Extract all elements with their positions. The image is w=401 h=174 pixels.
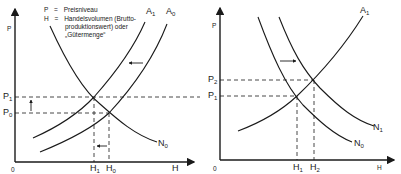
- left-label-p1: P1: [3, 92, 12, 104]
- right-supply-curve-a1: [238, 16, 363, 131]
- right-label-p2: P2: [208, 75, 217, 87]
- left-x-axis-label: H: [172, 164, 179, 173]
- right-label-h1: H1: [293, 163, 303, 174]
- legend-h-line1: Handelsvolumen (Brutto-: [64, 15, 136, 22]
- legend-p-key: P: [44, 6, 48, 13]
- legend-p: P = Preisniveau: [44, 6, 98, 14]
- left-label-h0: H0: [106, 164, 116, 174]
- right-label-n1: N1: [373, 123, 383, 135]
- legend-h-key: H: [44, 15, 49, 22]
- left-label-p0: P0: [3, 108, 12, 120]
- left-chart: [15, 9, 200, 162]
- left-label-a1: A1: [146, 7, 155, 19]
- left-y-axis-label: P: [7, 25, 11, 32]
- diagram-canvas: [0, 0, 401, 174]
- left-label-n0: N0: [158, 139, 168, 151]
- legend-h-line3: „Gütermenge“: [65, 31, 105, 39]
- right-label-p1: P1: [208, 91, 217, 103]
- left-origin-label: 0: [11, 166, 15, 173]
- right-demand-curve-n0: [258, 17, 352, 142]
- right-x-axis-label: H: [377, 164, 382, 171]
- right-origin-label: 0: [213, 165, 217, 172]
- legend-p-text: Preisniveau: [64, 6, 98, 13]
- legend-h: H = Handelsvolumen (Brutto-: [44, 15, 136, 23]
- right-chart: [220, 8, 394, 160]
- left-supply-curve-a0: [40, 24, 167, 152]
- legend-h-eq: =: [55, 15, 59, 22]
- legend-p-eq: =: [54, 6, 58, 13]
- right-demand-curve-n1: [279, 17, 374, 126]
- left-label-h1: H1: [90, 164, 100, 174]
- legend-h-line2: produktionswert) oder: [65, 23, 128, 31]
- right-y-axis-label: P: [212, 22, 216, 29]
- left-supply-curve-a1: [33, 22, 145, 138]
- left-label-a0: A0: [166, 7, 175, 19]
- right-label-h2: H2: [310, 163, 320, 174]
- right-label-n0: N0: [354, 139, 364, 151]
- left-demand-curve-n0: [50, 26, 157, 142]
- right-label-a1: A1: [360, 6, 369, 18]
